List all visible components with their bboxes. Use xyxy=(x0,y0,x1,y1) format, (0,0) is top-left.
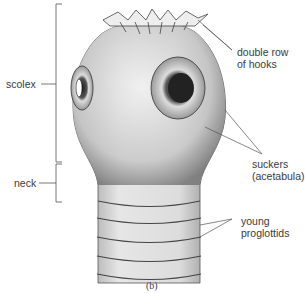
label-hooks-line1: double row xyxy=(237,46,288,58)
bracket-scolex xyxy=(41,4,62,162)
label-suckers-line2: (acetabula) xyxy=(252,170,305,182)
scolex-body xyxy=(73,22,226,283)
label-suckers-line1: suckers xyxy=(252,158,288,170)
sucker-right xyxy=(151,57,205,119)
label-hooks-line2: of hooks xyxy=(237,58,277,70)
scolex-illustration xyxy=(0,0,305,293)
bracket-neck xyxy=(39,164,62,202)
figure-caption: (b) xyxy=(146,280,158,291)
label-proglottids-line1: young xyxy=(241,215,270,227)
label-neck: neck xyxy=(14,177,36,189)
label-scolex: scolex xyxy=(6,78,36,90)
sucker-left xyxy=(71,66,93,110)
label-proglottids-line2: proglottids xyxy=(241,227,289,239)
